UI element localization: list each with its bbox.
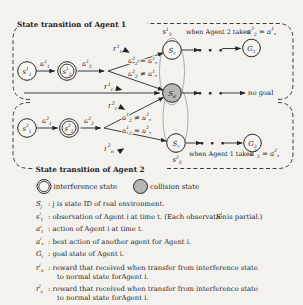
ellipsis-agent1-goal: • • •	[197, 46, 224, 55]
definition-text: is partial.)	[227, 213, 263, 221]
ellipsis-agent2-goal: • • •	[199, 139, 226, 148]
collision-state-icon	[134, 180, 148, 194]
agent1-title: State transition of Agent 1	[17, 20, 126, 29]
definition-text: : j is state ID of real environment.	[48, 200, 164, 208]
definition-text: : goal state of Agent i.	[48, 250, 124, 258]
agent2-title: State transition of Agent 2	[36, 165, 145, 174]
when-agent2-takes-text: when Agent 2 takes	[186, 28, 250, 36]
definition-text-continued: to normal state forAgent i.	[57, 294, 148, 302]
no-goal-text: no goal	[248, 89, 273, 97]
legend-interference-label: interference state	[54, 183, 118, 191]
definition-text: : reward that received when transfer fro…	[48, 285, 258, 293]
ellipsis-collision-row: • • •	[197, 89, 224, 98]
definition-text-continued: to normal state forAgent i.	[57, 273, 148, 281]
legend-collision-label: collision state	[150, 183, 199, 191]
when-agent1-takes-text: when Agent 1 takes	[189, 150, 253, 158]
state-transition-figure: State transition of Agent 1 State transi…	[0, 0, 303, 305]
definition-text: : observation of Agent i at time t. (Eac…	[48, 213, 227, 221]
definition-text: : reward that received when transfer fro…	[48, 264, 258, 272]
definition-text: : action of Agent i at time t.	[48, 225, 143, 233]
definition-text: : best action of another agent for Agent…	[48, 238, 191, 246]
